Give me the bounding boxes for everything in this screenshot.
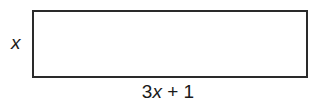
length-constant: + 1: [162, 81, 194, 102]
rectangle-diagram: x 3x + 1: [0, 0, 319, 105]
width-label: x: [11, 33, 21, 53]
length-label: 3x + 1: [0, 80, 319, 104]
rectangle-shape: [32, 10, 308, 78]
length-coefficient: 3: [142, 81, 153, 102]
length-variable: x: [152, 81, 162, 102]
